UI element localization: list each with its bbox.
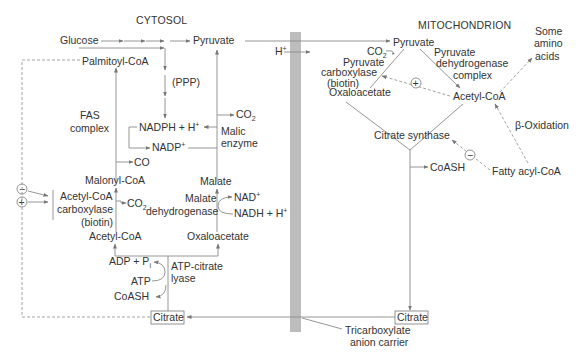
adp-label: ADP + Pi <box>109 255 151 269</box>
fas-label-2: complex <box>70 122 110 134</box>
atp-citrate-lyase-label: ATP-citrate <box>171 260 223 272</box>
nadh-nad-curve <box>218 197 233 214</box>
acc-label-2: carboxylase <box>57 203 113 215</box>
mito-acetyl-coa-label: Acetyl-CoA <box>453 90 506 102</box>
glucose-label: Glucose <box>60 34 99 46</box>
ppp-label: (PPP) <box>172 76 200 88</box>
mito-pyruvate-label: Pyruvate <box>393 36 435 48</box>
synthase-inhibitor: − <box>465 149 475 161</box>
nadph-label: NADPH + H+ <box>139 121 199 133</box>
co2-fixation-curve <box>386 51 393 54</box>
nadp-label: NADP+ <box>152 141 185 153</box>
mitochondrial-membrane <box>290 32 301 332</box>
acetylcoa-to-synthase-line <box>410 104 463 150</box>
palmitoyl-coa-label: Palmitoyl-CoA <box>82 55 149 67</box>
coash-label: CoASH <box>114 290 149 302</box>
mito-oxaloacetate-label: Oxaloacetate <box>329 86 391 98</box>
malic-enzyme-label-2: enzyme <box>221 137 258 149</box>
svg-text:−: − <box>467 149 473 161</box>
pc-activator: + <box>411 77 421 89</box>
cytosol-oxaloacetate-label: Oxaloacetate <box>187 230 249 242</box>
malic-co2-label: CO2 <box>236 108 256 122</box>
carrier-pointer <box>302 318 342 329</box>
mitochondrion-label: MITOCHONDRION <box>418 19 511 31</box>
oaa-to-synthase-line <box>346 102 410 150</box>
beta-oxidation-line <box>495 104 528 163</box>
amino-acids-label-2: amino <box>534 37 563 49</box>
pdh-label-2: dehydrogenase <box>436 57 509 69</box>
fatty-acyl-coa-label: Fatty acyl-CoA <box>492 165 561 177</box>
mito-coash-label: CoASH <box>430 161 465 173</box>
acc-co2-arrow <box>116 201 126 203</box>
coash-release-curve <box>156 285 166 297</box>
cytosol-pyruvate-label: Pyruvate <box>193 34 235 46</box>
acc-co2-label: CO2 <box>127 197 147 211</box>
inhibit-arrow <box>28 191 48 196</box>
acc-label-3: (biotin) <box>81 216 113 228</box>
co-label: CO <box>134 156 150 168</box>
cytosol-label: CYTOSOL <box>136 14 187 26</box>
nad-label: NAD+ <box>234 191 260 203</box>
atp-adp-curve <box>152 262 165 281</box>
beta-oxidation-label: β-Oxidation <box>515 119 569 131</box>
cytosol-citrate-label: Citrate <box>153 311 184 323</box>
pdh-label-3: complex <box>453 69 493 81</box>
acc-label: Acetyl-CoA <box>60 190 113 202</box>
citrate-synthase-label: Citrate synthase <box>374 129 450 141</box>
amino-acids-label: Some <box>535 25 563 37</box>
carrier-label-2: anion carrier <box>350 336 409 348</box>
lipogenesis-pathway-diagram: CYTOSOL MITOCHONDRION Glucose Pyruvate (… <box>0 0 583 362</box>
fas-label: FAS <box>80 109 100 121</box>
h-plus-label: H+ <box>275 45 287 57</box>
mito-citrate-label: Citrate <box>397 311 428 323</box>
atp-citrate-lyase-label-2: lyase <box>171 272 196 284</box>
atp-label: ATP <box>131 275 151 287</box>
cytosol-acetyl-coa-label: Acetyl-CoA <box>89 230 142 242</box>
amino-acids-label-3: acids <box>535 50 560 62</box>
mdh-label-2: dehydrogenase <box>146 205 219 217</box>
cytosol-malate-label: Malate <box>200 175 232 187</box>
mdh-label: Malate <box>185 192 217 204</box>
svg-text:+: + <box>413 77 419 89</box>
carrier-label: Tricarboxylate <box>345 324 411 336</box>
malic-enzyme-label: Malic <box>221 125 246 137</box>
nadh-label: NADH + H+ <box>234 207 287 219</box>
malonyl-coa-label: Malonyl-CoA <box>85 174 145 186</box>
